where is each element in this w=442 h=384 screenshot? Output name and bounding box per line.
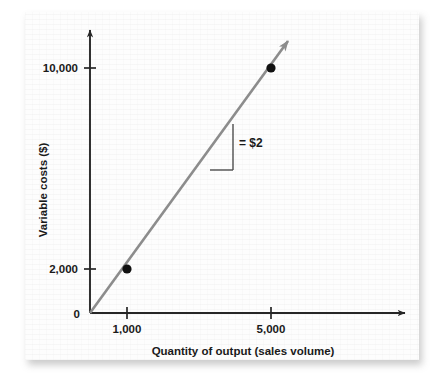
origin-label: 0	[74, 308, 80, 320]
y-tick-label-10000: 10,000	[43, 62, 78, 74]
variable-cost-line	[90, 41, 288, 313]
data-point-5000-10000	[266, 63, 275, 72]
variable-cost-chart: 10,000 2,000 0 1,000 5,000 Quantity of o…	[0, 0, 442, 384]
x-tick-label-5000: 5,000	[257, 323, 286, 335]
y-tick-label-2000: 2,000	[49, 263, 78, 275]
y-axis-title: Variable costs ($)	[37, 143, 49, 238]
slope-annotation-label: = $2	[239, 136, 263, 150]
data-point-1000-2000	[122, 264, 131, 273]
x-tick-label-1000: 1,000	[113, 323, 142, 335]
x-axis-title: Quantity of output (sales volume)	[152, 345, 335, 357]
figure-root: 10,000 2,000 0 1,000 5,000 Quantity of o…	[0, 0, 442, 384]
